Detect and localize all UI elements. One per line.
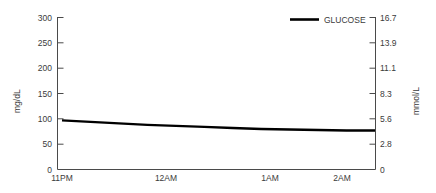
chart-canvas (0, 0, 436, 193)
right-axis-ticks (370, 18, 376, 145)
left-tick-label-50: 50 (10, 140, 52, 149)
glucose-data-line (62, 120, 375, 130)
x-tick-label-12am: 12AM (146, 174, 186, 183)
left-tick-label-200: 200 (10, 64, 52, 73)
right-axis-title: mmol/L (412, 87, 421, 115)
right-tick-label-28: 2.8 (380, 140, 426, 149)
left-tick-label-250: 250 (10, 39, 52, 48)
x-tick-label-1am: 1AM (250, 174, 290, 183)
right-tick-label-167: 16.7 (380, 14, 426, 23)
right-tick-label-139: 13.9 (380, 39, 426, 48)
right-tick-label-111: 11.1 (380, 64, 426, 73)
left-tick-label-100: 100 (10, 115, 52, 124)
left-axis-ticks (58, 18, 64, 170)
right-tick-label-56: 5.6 (380, 115, 426, 124)
legend-item-glucose: GLUCOSE (324, 16, 366, 25)
left-tick-label-300: 300 (10, 14, 52, 23)
x-tick-label-2am: 2AM (322, 174, 362, 183)
right-tick-label-0: 0 (380, 166, 426, 175)
left-axis-title: mg/dL (13, 89, 22, 113)
left-tick-label-0: 0 (10, 166, 52, 175)
x-tick-label-11pm: 11PM (42, 174, 82, 183)
glucose-chart: 300 250 200 150 100 50 0 mg/dL 16.7 13.9… (0, 0, 436, 193)
